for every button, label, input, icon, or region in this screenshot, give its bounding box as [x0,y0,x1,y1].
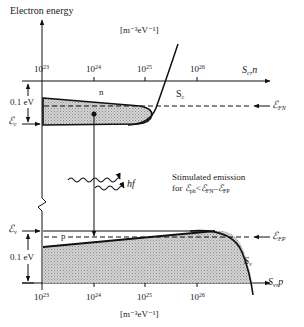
top-tick-1e24: 1024 [86,65,101,74]
sv-label: Sv [244,256,252,266]
annotation-line1: Stimulated emission [172,173,245,182]
annotation-line2: for ℰph<ℰFN–ℰFP [172,184,230,193]
sc-label: Sc [176,89,184,99]
valence-band-holes [43,231,253,295]
bottom-axis-unit: [m⁻³eV⁻¹] [120,310,158,319]
bottom-dos-axis [22,283,270,287]
top-dos-axis [22,77,270,81]
band-diagram-canvas [0,0,304,327]
top-tick-1e26: 1026 [190,65,205,74]
y-axis-label: Electron energy [10,6,73,16]
conduction-energy-span-label: 0.1 eV [10,98,34,107]
hole-density-label: p [60,232,67,241]
top-axis-unit: [m⁻³eV⁻¹] [120,26,158,35]
ev-label: ℰv [8,224,17,234]
electron-density-label: n [99,88,104,97]
conduction-band-electrons [43,44,178,125]
bottom-tick-1e26: 1026 [190,293,205,302]
bottom-tick-1e25: 1025 [137,293,152,302]
fermi-fp-label: ℰFP [272,231,285,241]
recombination-transition [92,112,97,237]
valence-energy-span-label: 0.1 eV [10,253,34,262]
bottom-tick-1e24: 1024 [86,293,101,302]
top-tick-1e23: 1023 [34,65,49,74]
bottom-axis-label: Sv,p [268,277,283,287]
top-axis-label: Sc,n [242,65,257,75]
ec-label: ℰc [8,116,17,126]
photon-wave-icon [68,178,124,190]
top-tick-1e25: 1025 [137,65,152,74]
fermi-fn-label: ℰFN [272,100,286,110]
bottom-tick-1e23: 1023 [34,293,49,302]
photon-label: hf [127,179,135,189]
